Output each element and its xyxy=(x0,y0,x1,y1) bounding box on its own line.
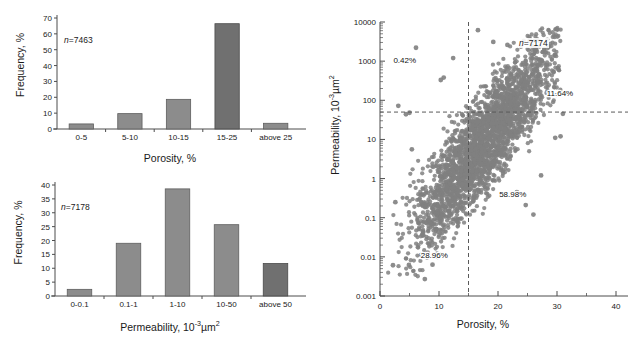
scatter-point xyxy=(401,232,405,236)
porosity-histogram-y-axis-label: Frequency, % xyxy=(14,10,26,120)
scatter-point xyxy=(497,130,501,134)
scatter-point-outlier xyxy=(556,66,561,71)
x-axis-tick-label: 20 xyxy=(494,302,503,311)
scatter-point xyxy=(453,216,457,220)
scatter-point xyxy=(428,199,432,203)
x-axis-tick-label: 0 xyxy=(378,302,383,311)
scatter-plot-panel: Permeability, 10-3µm2 0.0010.010.1110100… xyxy=(318,0,639,342)
scatter-point xyxy=(420,171,424,175)
scatter-point-outlier xyxy=(505,43,510,48)
scatter-point-outlier xyxy=(531,212,536,217)
scatter-point xyxy=(501,57,505,61)
scatter-n-value: 7174 xyxy=(529,38,548,48)
scatter-point xyxy=(464,168,468,172)
scatter-point xyxy=(514,107,518,111)
scatter-point xyxy=(446,169,450,173)
scatter-ylabel-exponent2: 2 xyxy=(328,75,336,79)
scatter-point xyxy=(486,116,490,120)
scatter-point xyxy=(464,211,468,215)
scatter-point-outlier xyxy=(438,78,443,83)
scatter-point xyxy=(470,164,474,168)
scatter-point xyxy=(498,96,502,100)
scatter-point xyxy=(556,34,560,38)
scatter-point xyxy=(470,118,474,122)
scatter-point xyxy=(500,80,504,84)
scatter-point xyxy=(414,233,418,237)
scatter-point xyxy=(546,101,550,105)
scatter-point xyxy=(406,251,410,255)
histogram-bar xyxy=(67,289,92,296)
scatter-point xyxy=(527,75,531,79)
scatter-point xyxy=(499,68,503,72)
scatter-point-outlier xyxy=(491,40,496,45)
scatter-point xyxy=(453,149,457,153)
scatter-point xyxy=(502,86,506,90)
scatter-point xyxy=(420,233,424,237)
y-axis-tick-label: 10 xyxy=(367,135,376,144)
scatter-point xyxy=(485,155,489,159)
scatter-point xyxy=(441,213,445,217)
scatter-point xyxy=(433,190,437,194)
scatter-point xyxy=(542,113,546,117)
scatter-point xyxy=(458,139,462,143)
scatter-point xyxy=(441,193,445,197)
scatter-point-outlier xyxy=(553,135,558,140)
scatter-point xyxy=(512,117,516,121)
porosity-n-value: 7463 xyxy=(74,35,93,45)
scatter-point xyxy=(538,108,542,112)
scatter-point xyxy=(482,93,486,97)
x-axis-tick-label: 5-10 xyxy=(122,133,139,142)
x-axis-tick-label: above 25 xyxy=(259,133,292,142)
scatter-point xyxy=(474,146,478,150)
scatter-point xyxy=(452,175,456,179)
scatter-point xyxy=(495,71,499,75)
scatter-point-outlier xyxy=(396,103,401,108)
scatter-point xyxy=(436,203,440,207)
scatter-point xyxy=(531,52,535,56)
scatter-point xyxy=(474,97,478,101)
scatter-point xyxy=(441,163,445,167)
scatter-point xyxy=(396,231,400,235)
scatter-point xyxy=(430,161,434,165)
scatter-point xyxy=(502,162,506,166)
scatter-plot-canvas: 0.0010.010.11101001000100000102030400.42… xyxy=(318,0,639,342)
scatter-point xyxy=(486,136,490,140)
scatter-point xyxy=(538,102,542,106)
scatter-point xyxy=(538,90,542,94)
y-axis-tick-label: 0.001 xyxy=(356,292,377,301)
perm-xlabel-base: Permeability, 10 xyxy=(120,321,195,333)
scatter-point xyxy=(437,167,441,171)
scatter-point xyxy=(531,106,535,110)
scatter-point-outlier xyxy=(422,277,427,282)
scatter-point xyxy=(524,104,528,108)
scatter-point xyxy=(475,204,479,208)
y-axis-tick-label: 25 xyxy=(41,223,50,232)
scatter-point xyxy=(452,206,456,210)
scatter-point xyxy=(397,250,401,254)
scatter-point xyxy=(471,169,475,173)
scatter-point xyxy=(511,89,515,93)
scatter-point xyxy=(451,160,455,164)
scatter-point xyxy=(426,228,430,232)
scatter-point xyxy=(433,174,437,178)
scatter-point xyxy=(526,134,530,138)
perm-xlabel-exponent2: 2 xyxy=(216,320,220,328)
scatter-point xyxy=(517,130,521,134)
x-axis-tick-label: 0.1-1 xyxy=(119,300,138,309)
scatter-point xyxy=(416,179,420,183)
scatter-point xyxy=(426,164,430,168)
scatter-point xyxy=(432,213,436,217)
scatter-point xyxy=(455,170,459,174)
scatter-point xyxy=(552,98,556,102)
scatter-point xyxy=(555,78,559,82)
scatter-point xyxy=(455,156,459,160)
scatter-point xyxy=(491,106,495,110)
scatter-point xyxy=(420,179,424,183)
scatter-point xyxy=(484,84,488,88)
scatter-point xyxy=(418,190,422,194)
scatter-point xyxy=(475,121,479,125)
scatter-point xyxy=(450,190,454,194)
y-axis-tick-label: 40 xyxy=(41,181,50,190)
scatter-point xyxy=(531,100,535,104)
quadrant-percentage-label: 0.42% xyxy=(393,56,416,65)
